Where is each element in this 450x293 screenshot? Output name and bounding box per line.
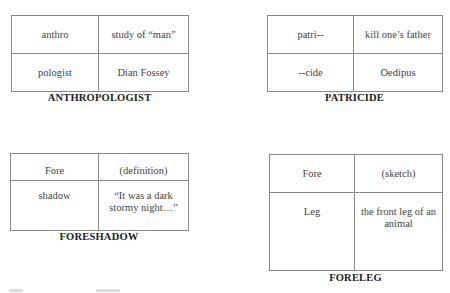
word-part-grid: patri-- kill one’s father --cide Oedipus <box>267 15 443 92</box>
card-title: FORELEG <box>269 272 442 283</box>
meaning-cell: kill one’s father <box>354 16 443 54</box>
card-title: ANTHROPOLOGIST <box>11 92 188 103</box>
prefix-cell: anthro <box>12 16 99 54</box>
root-cell: Leg <box>270 193 355 271</box>
suffix-cell: --cide <box>268 54 354 92</box>
vocab-card-foreshadow: Fore (definition) shadow “It was a dark … <box>10 153 189 231</box>
vocab-card-patricide: patri-- kill one’s father --cide Oedipus <box>267 15 443 92</box>
vocab-card-anthropologist: anthro study of “man” pologist Dian Foss… <box>11 15 189 92</box>
card-title: PATRICIDE <box>267 92 442 103</box>
definition-label-cell: (definition) <box>99 154 189 181</box>
faint-text-fragment <box>9 289 23 292</box>
sketch-label-cell: (sketch) <box>355 155 443 193</box>
example-cell: Oedipus <box>354 54 443 92</box>
example-cell: Dian Fossey <box>99 54 189 92</box>
prefix-cell: patri-- <box>268 16 354 54</box>
meaning-cell: study of “man” <box>99 16 189 54</box>
vocab-card-foreleg: Fore (sketch) Leg the front leg of an an… <box>269 154 443 271</box>
word-part-grid: Fore (definition) shadow “It was a dark … <box>10 153 189 231</box>
faint-text-fragment <box>96 289 120 292</box>
root-cell: shadow <box>11 181 99 231</box>
prefix-cell: Fore <box>11 154 99 181</box>
card-title: FORESHADOW <box>10 231 188 242</box>
prefix-cell: Fore <box>270 155 355 193</box>
example-cell: “It was a dark stormy night…” <box>99 181 189 231</box>
suffix-cell: pologist <box>12 54 99 92</box>
word-part-grid: Fore (sketch) Leg the front leg of an an… <box>269 154 443 271</box>
word-part-grid: anthro study of “man” pologist Dian Foss… <box>11 15 189 92</box>
definition-cell: the front leg of an animal <box>355 193 443 271</box>
